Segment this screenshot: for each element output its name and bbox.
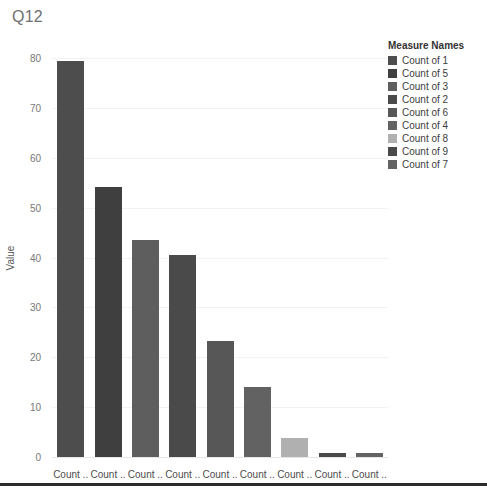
y-axis-title: Value <box>5 246 16 271</box>
legend-item-label: Count of 9 <box>402 145 448 158</box>
legend-items: Count of 1Count of 5Count of 3Count of 2… <box>388 54 484 171</box>
bar[interactable] <box>207 341 234 457</box>
legend-item-label: Count of 3 <box>402 80 448 93</box>
legend-item[interactable]: Count of 9 <box>388 145 484 158</box>
x-axis-tick-label: Count .. <box>165 469 200 480</box>
legend-title: Measure Names <box>388 40 484 51</box>
y-axis-tick-label: 70 <box>30 102 41 113</box>
x-axis-tick-label: Count .. <box>240 469 275 480</box>
legend-item[interactable]: Count of 5 <box>388 67 484 80</box>
y-axis-tick-label: 30 <box>30 302 41 313</box>
legend-swatch-icon <box>388 108 397 117</box>
legend-item[interactable]: Count of 3 <box>388 80 484 93</box>
gridline <box>52 158 388 159</box>
x-axis-tick-label: Count .. <box>352 469 387 480</box>
y-axis-tick-label: 40 <box>30 252 41 263</box>
bar[interactable] <box>132 240 159 457</box>
plot-area <box>52 58 388 457</box>
legend-item[interactable]: Count of 6 <box>388 106 484 119</box>
legend-swatch-icon <box>388 56 397 65</box>
y-axis-tick-label: 80 <box>30 53 41 64</box>
x-axis-tick-label: Count .. <box>277 469 312 480</box>
y-axis-tick-label: 50 <box>30 202 41 213</box>
axis-baseline <box>52 457 388 458</box>
bar[interactable] <box>95 187 122 457</box>
legend-swatch-icon <box>388 160 397 169</box>
bar[interactable] <box>244 387 271 457</box>
legend-item-label: Count of 7 <box>402 158 448 171</box>
legend-item[interactable]: Count of 4 <box>388 119 484 132</box>
y-axis-tick-label: 10 <box>30 402 41 413</box>
legend-item-label: Count of 6 <box>402 106 448 119</box>
x-axis-tick-label: Count .. <box>202 469 237 480</box>
legend-item-label: Count of 2 <box>402 93 448 106</box>
x-axis-tick-label: Count .. <box>53 469 88 480</box>
bar[interactable] <box>281 438 308 457</box>
y-axis-tick-label: 20 <box>30 352 41 363</box>
legend-swatch-icon <box>388 147 397 156</box>
legend-item[interactable]: Count of 7 <box>388 158 484 171</box>
legend-item[interactable]: Count of 2 <box>388 93 484 106</box>
legend-item-label: Count of 1 <box>402 54 448 67</box>
legend-swatch-icon <box>388 69 397 78</box>
legend-swatch-icon <box>388 134 397 143</box>
chart-container: Q12 01020304050607080 Value Count ..Coun… <box>0 0 487 496</box>
bottom-divider <box>0 483 487 486</box>
gridline <box>52 108 388 109</box>
legend-swatch-icon <box>388 82 397 91</box>
legend: Measure Names Count of 1Count of 5Count … <box>388 40 484 171</box>
legend-item[interactable]: Count of 1 <box>388 54 484 67</box>
y-axis-tick-label: 60 <box>30 152 41 163</box>
bar[interactable] <box>169 255 196 457</box>
x-axis-tick-label: Count .. <box>90 469 125 480</box>
legend-swatch-icon <box>388 95 397 104</box>
legend-item-label: Count of 8 <box>402 132 448 145</box>
bar[interactable] <box>57 61 84 458</box>
legend-swatch-icon <box>388 121 397 130</box>
gridline <box>52 58 388 59</box>
x-axis-tick-label: Count .. <box>128 469 163 480</box>
x-axis-tick-label: Count .. <box>314 469 349 480</box>
legend-item-label: Count of 5 <box>402 67 448 80</box>
y-axis-tick-label: 0 <box>35 452 41 463</box>
legend-item-label: Count of 4 <box>402 119 448 132</box>
legend-item[interactable]: Count of 8 <box>388 132 484 145</box>
